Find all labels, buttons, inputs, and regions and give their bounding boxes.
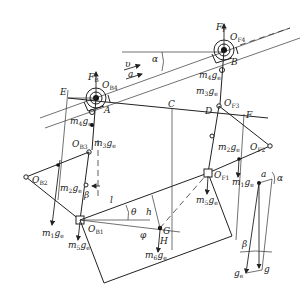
triangle-alpha-label: α <box>277 173 283 183</box>
joint-OF1 <box>204 169 212 177</box>
h-label: h <box>146 207 152 217</box>
beta-left-label: β <box>83 190 89 200</box>
joint-OB2-label: OB2 <box>32 175 48 186</box>
theta-label: θ <box>131 207 137 217</box>
mechanism-diagram: α υ a FB FF OB4 OF4 A B E C D F <box>0 0 306 300</box>
joint-OB1-label: OB1 <box>88 224 104 235</box>
m1ge-right-arrow <box>238 159 239 177</box>
joint-OF3-label: OF3 <box>224 98 240 109</box>
acceleration-label: a <box>128 69 133 79</box>
triangle-a-label: a <box>261 169 266 179</box>
mass-marker <box>84 183 88 187</box>
l-label: l <box>110 195 113 205</box>
m5ge-right-label: m5ge <box>196 195 218 206</box>
point-D-label: D <box>204 106 212 116</box>
m5ge-left-label: m5ge <box>68 240 90 251</box>
joint-OB3-label: OB3 <box>72 139 88 150</box>
triangle-beta-label: β <box>241 239 247 249</box>
point-F-label: F <box>245 110 253 120</box>
m4ge-left-label: m4ge <box>70 116 92 127</box>
incline-rail <box>40 28 300 128</box>
joint-OF2-label: OF2 <box>250 142 266 153</box>
point-G-label: G <box>163 226 170 236</box>
force-FB-label: FB <box>87 72 99 83</box>
point-B-label: B <box>230 57 238 67</box>
m2ge-right-label: m2ge <box>218 142 240 153</box>
theta-arc <box>126 205 129 220</box>
m6ge-label: m6ge <box>145 250 167 261</box>
link-F3-F2 <box>219 106 270 146</box>
m5ge-left-arrow <box>78 222 80 240</box>
m1ge-left-label: m1ge <box>42 228 64 239</box>
joint-OF2 <box>268 144 272 148</box>
acceleration-vector-triangle <box>240 172 275 273</box>
joint-OF1-label: OF1 <box>214 170 229 181</box>
joint-OB4-label: OB4 <box>102 80 118 91</box>
horizontal-reference <box>122 52 225 71</box>
joint-OB2 <box>24 175 28 179</box>
phi-label: φ <box>140 230 147 240</box>
m5ge-right-arrow <box>207 176 208 194</box>
m3ge-left-label: m3ge <box>94 138 116 149</box>
point-H-label: H <box>159 236 168 246</box>
velocity-label: υ <box>125 59 131 69</box>
point-E-label: E <box>59 87 67 97</box>
link-F3-F1 <box>208 106 219 173</box>
mass-marker <box>56 163 60 167</box>
triangle-g-label: g <box>264 264 270 274</box>
m2ge-left-label: m2ge <box>60 183 82 194</box>
m3ge-right-label: m3ge <box>196 86 218 97</box>
h-line <box>152 195 160 228</box>
point-A-label: A <box>103 105 111 115</box>
force-FF-label: FF <box>215 22 226 33</box>
joint-OF4-label: OF4 <box>230 32 246 43</box>
m1ge-right-label: m1ge <box>232 177 254 188</box>
triangle-ge-label: ge <box>234 268 244 279</box>
mass-marker <box>210 134 214 138</box>
m4ge-right-label: m4ge <box>199 70 221 81</box>
point-C-label: C <box>168 99 175 109</box>
alpha-label: α <box>152 54 158 64</box>
